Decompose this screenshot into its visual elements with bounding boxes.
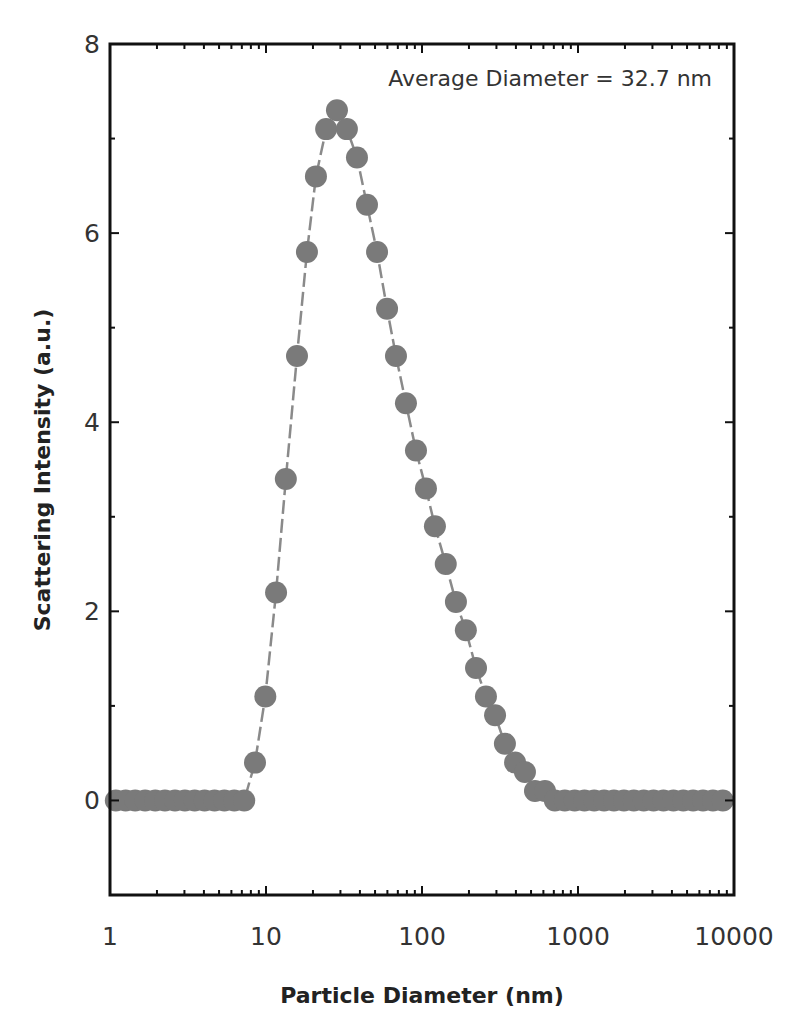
y-tick-label: 4 — [84, 408, 100, 437]
data-point — [286, 345, 308, 367]
average-diameter-annotation: Average Diameter = 32.7 nm — [388, 66, 712, 91]
data-point — [395, 392, 417, 414]
data-point — [385, 345, 407, 367]
y-tick-label: 0 — [84, 786, 100, 815]
x-tick-label: 100 — [398, 922, 446, 951]
data-point — [405, 440, 427, 462]
data-point — [265, 581, 287, 603]
x-tick-label: 1000 — [546, 922, 610, 951]
data-point — [415, 477, 437, 499]
y-tick-label: 6 — [84, 219, 100, 248]
data-point — [445, 591, 467, 613]
data-point — [244, 752, 266, 774]
x-axis-title: Particle Diameter (nm) — [280, 983, 564, 1008]
y-tick-labels: 02468 — [84, 30, 100, 815]
data-point — [494, 733, 516, 755]
data-point — [296, 241, 318, 263]
data-point — [424, 515, 446, 537]
data-point — [356, 194, 378, 216]
data-point — [484, 704, 506, 726]
data-point — [254, 685, 276, 707]
data-point — [346, 146, 368, 168]
scatter-chart: 110100100010000 02468 Average Diameter =… — [0, 0, 799, 1031]
data-series — [105, 99, 734, 811]
y-tick-label: 8 — [84, 30, 100, 59]
data-point — [366, 241, 388, 263]
data-point — [315, 118, 337, 140]
data-point — [514, 761, 536, 783]
data-point — [435, 553, 457, 575]
data-point — [455, 619, 477, 641]
data-point — [275, 468, 297, 490]
data-point — [475, 685, 497, 707]
data-point — [233, 789, 255, 811]
data-point — [465, 657, 487, 679]
data-point — [376, 298, 398, 320]
y-tick-label: 2 — [84, 597, 100, 626]
y-axis-title: Scattering Intensity (a.u.) — [30, 309, 55, 632]
x-tick-label: 1 — [102, 922, 118, 951]
data-point — [336, 118, 358, 140]
x-tick-label: 10 — [250, 922, 282, 951]
x-tick-labels: 110100100010000 — [102, 922, 774, 951]
data-point — [305, 165, 327, 187]
x-tick-label: 10000 — [694, 922, 774, 951]
data-point — [326, 99, 348, 121]
